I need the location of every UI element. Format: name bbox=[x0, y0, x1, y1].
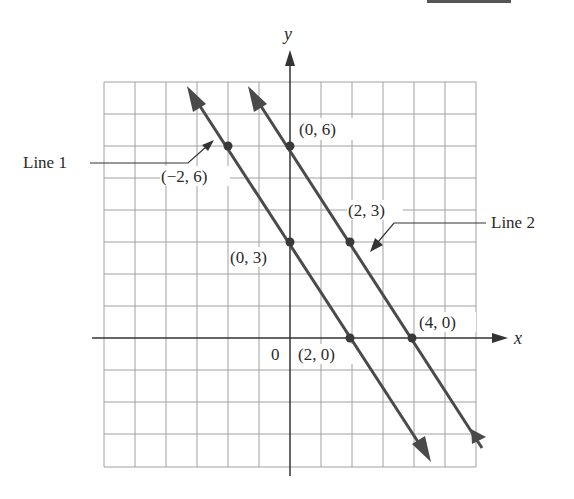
callout-line-2-label: Line 2 bbox=[491, 213, 535, 232]
line-1-arrow-down-icon bbox=[412, 436, 431, 462]
label-2-0: (2, 0) bbox=[298, 345, 335, 364]
point-neg2-6 bbox=[224, 142, 233, 151]
y-axis-label: y bbox=[282, 24, 292, 44]
coordinate-graph: x y 0 (−2, 6) (0, 3) (2, 0) (0, 6) (2, 3… bbox=[0, 0, 574, 499]
y-axis-arrow-icon bbox=[285, 50, 295, 66]
label-4-0: (4, 0) bbox=[419, 313, 456, 332]
label-0-3: (0, 3) bbox=[230, 248, 267, 267]
callout-line-1-label: Line 1 bbox=[23, 153, 67, 172]
point-labels: (−2, 6) (0, 3) (2, 0) (0, 6) (2, 3) (4, … bbox=[160, 118, 476, 364]
point-0-6 bbox=[286, 142, 295, 151]
callout-line-2-arrow-icon bbox=[370, 238, 383, 252]
origin-label: 0 bbox=[271, 345, 280, 364]
x-axis-arrow-icon bbox=[492, 333, 508, 343]
label-2-3: (2, 3) bbox=[348, 201, 385, 220]
point-0-3 bbox=[286, 238, 295, 247]
point-4-0 bbox=[408, 334, 417, 343]
label-0-6: (0, 6) bbox=[299, 120, 336, 139]
point-2-3 bbox=[346, 238, 355, 247]
x-axis-label: x bbox=[513, 328, 522, 348]
point-2-0 bbox=[346, 334, 355, 343]
x-axis bbox=[92, 333, 508, 343]
line-2-arrow-up-icon bbox=[248, 86, 267, 112]
label-neg2-6: (−2, 6) bbox=[161, 167, 207, 186]
header-bar bbox=[427, 0, 511, 3]
